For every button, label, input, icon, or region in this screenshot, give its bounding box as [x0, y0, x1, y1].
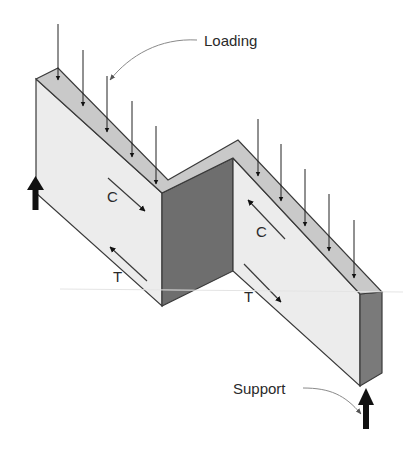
right-end-face	[360, 292, 382, 386]
loading-label: Loading	[204, 33, 257, 48]
folded-plate-diagram: Loading Support C T C T	[0, 0, 403, 453]
support-leader	[303, 388, 361, 414]
tension-label-right: T	[244, 289, 253, 304]
compression-label-left: C	[107, 189, 118, 204]
loading-leader	[110, 40, 197, 80]
support-arrow-right	[358, 388, 374, 429]
support-label: Support	[233, 381, 286, 396]
tension-label-left: T	[113, 269, 122, 284]
diagram-canvas	[0, 0, 403, 453]
compression-label-right: C	[256, 224, 267, 239]
